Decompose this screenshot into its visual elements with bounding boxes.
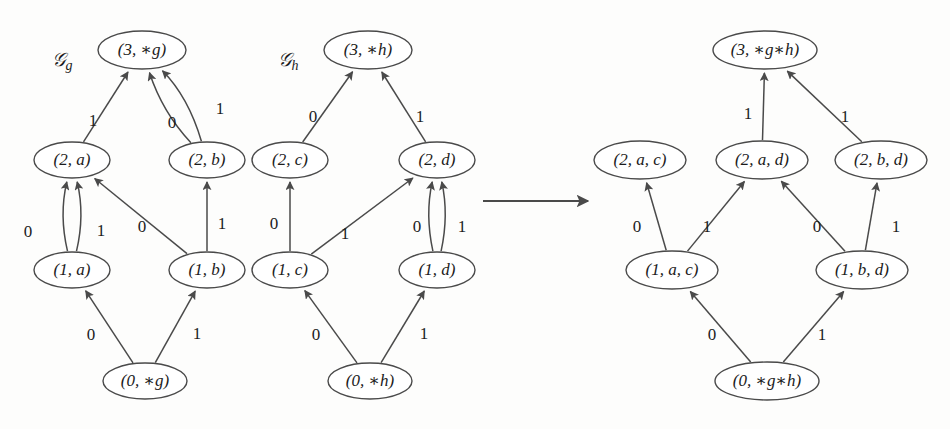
- edge-label-0: 0: [270, 214, 279, 233]
- graph-caption-g: 𝒢g: [52, 49, 73, 73]
- node-label: (0, ∗h): [346, 371, 395, 390]
- node-label: (2, a, c): [614, 150, 667, 169]
- node-label: (0, ∗g∗h): [733, 371, 802, 390]
- edge-label-0: 0: [309, 107, 318, 126]
- node-label: (2, a, d): [735, 150, 789, 169]
- edge-label-1: 1: [216, 99, 225, 118]
- graph-node[interactable]: (1, b, d): [816, 251, 908, 289]
- graph-node[interactable]: (2, c): [252, 142, 328, 178]
- node-label: (2, a): [54, 150, 91, 169]
- node-label: (3, ∗g∗h): [731, 40, 800, 59]
- graph-edge: [690, 291, 750, 362]
- graph-node[interactable]: (1, d): [399, 252, 475, 288]
- graph-node[interactable]: (2, a, c): [594, 141, 686, 179]
- graph-edge: [441, 182, 445, 251]
- graph-node[interactable]: (3, ∗g∗h): [713, 31, 817, 69]
- edge-label-1: 1: [341, 224, 350, 243]
- graph-node[interactable]: (0, ∗h): [328, 363, 412, 399]
- graph-edge: [647, 183, 667, 250]
- graph-node[interactable]: (1, a, c): [626, 251, 718, 289]
- graph-caption-h: 𝒢h: [278, 49, 299, 73]
- edge-label-0: 0: [168, 113, 177, 132]
- edge-label-0: 0: [708, 325, 717, 344]
- graph-node[interactable]: (2, a, d): [716, 141, 808, 179]
- graph-node[interactable]: (1, a): [34, 252, 110, 288]
- graph-edge: [787, 71, 862, 142]
- graph-node[interactable]: (3, ∗h): [324, 31, 412, 69]
- node-label: (1, a): [54, 260, 91, 279]
- edge-label-1: 1: [218, 214, 227, 233]
- graph-edge: [63, 182, 67, 251]
- node-label: (1, b, d): [835, 260, 889, 279]
- graph-edge: [155, 291, 195, 363]
- graph-product-figure: (3, ∗g)(2, a)(2, b)(1, a)(1, b)(0, ∗g)(3…: [0, 0, 950, 429]
- edge-label-1: 1: [458, 217, 467, 236]
- node-label: (2, b): [189, 150, 226, 169]
- node-label: (3, ∗h): [344, 40, 393, 59]
- graph-edge: [763, 73, 765, 140]
- edge-label-1: 1: [416, 107, 425, 126]
- graph-edge: [865, 183, 877, 250]
- edge-label-1: 1: [420, 324, 429, 343]
- edge-label-1: 1: [818, 325, 827, 344]
- edge-label-0: 0: [312, 325, 321, 344]
- edge-label-0: 0: [813, 217, 822, 236]
- edge-label-1: 1: [89, 111, 98, 130]
- edge-label-1: 1: [97, 221, 106, 240]
- node-label: (2, d): [419, 150, 456, 169]
- graph-edge: [783, 291, 843, 362]
- edge-label-1: 1: [744, 104, 753, 123]
- nodes-layer: (3, ∗g)(2, a)(2, b)(1, a)(1, b)(0, ∗g)(3…: [34, 31, 927, 400]
- graph-node[interactable]: (1, c): [252, 252, 328, 288]
- node-label: (2, c): [272, 150, 308, 169]
- graph-node[interactable]: (0, ∗g∗h): [715, 362, 819, 400]
- graph-node[interactable]: (0, ∗g): [103, 363, 187, 399]
- edge-label-0: 0: [87, 325, 96, 344]
- edge-labels-layer: 1010101010101010111010101: [24, 99, 901, 344]
- graph-edge: [150, 73, 191, 143]
- edge-label-1: 1: [703, 217, 712, 236]
- edge-label-0: 0: [413, 217, 422, 236]
- edge-label-0: 0: [24, 222, 33, 241]
- edge-label-0: 0: [138, 217, 147, 236]
- node-label: (1, b): [189, 260, 226, 279]
- node-label: (3, ∗g): [118, 40, 167, 59]
- edge-label-0: 0: [633, 217, 642, 236]
- graph-node[interactable]: (2, b): [169, 142, 245, 178]
- node-label: (1, d): [419, 260, 456, 279]
- graph-edge: [429, 182, 433, 251]
- graph-edge: [77, 182, 81, 251]
- node-label: (1, a, c): [646, 260, 699, 279]
- graph-edge: [688, 182, 745, 252]
- graph-edge: [84, 72, 129, 142]
- node-label: (0, ∗g): [121, 371, 170, 390]
- figure-canvas: (3, ∗g)(2, a)(2, b)(1, a)(1, b)(0, ∗g)(3…: [0, 0, 950, 429]
- graph-node[interactable]: (2, b, d): [835, 141, 927, 179]
- node-label: (2, b, d): [854, 150, 908, 169]
- edges-layer: [63, 71, 877, 363]
- graph-edge: [311, 178, 413, 254]
- graph-node[interactable]: (2, d): [399, 142, 475, 178]
- graph-edge: [381, 291, 424, 363]
- edge-label-1: 1: [841, 107, 850, 126]
- graph-node[interactable]: (2, a): [34, 142, 110, 178]
- edge-label-1: 1: [892, 217, 901, 236]
- edge-label-1: 1: [193, 324, 202, 343]
- node-label: (1, c): [272, 260, 308, 279]
- graph-node[interactable]: (1, b): [169, 252, 245, 288]
- graph-node[interactable]: (3, ∗g): [98, 31, 186, 69]
